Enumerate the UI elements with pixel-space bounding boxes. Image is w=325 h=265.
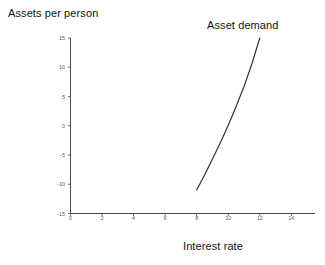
- x-tick-label: 8: [195, 215, 198, 221]
- x-tick-label: 10: [225, 215, 231, 221]
- tick-marks: [68, 38, 291, 216]
- asset-demand-curve: [197, 38, 260, 190]
- x-tick-label: 14: [288, 215, 294, 221]
- y-tick-label: 15: [46, 35, 65, 41]
- chart-screenshot: Assets per person Asset demand 151050-5-…: [0, 0, 325, 265]
- x-tick-label: 12: [257, 215, 263, 221]
- y-tick-label: 0: [46, 123, 65, 129]
- x-tick-label: 0: [69, 215, 72, 221]
- x-tick-label: 6: [164, 215, 167, 221]
- x-axis-title: Interest rate: [183, 240, 243, 252]
- y-tick-label: -15: [46, 211, 65, 217]
- axis-lines: [70, 38, 315, 214]
- x-tick-label: 4: [132, 215, 135, 221]
- y-tick-label: 10: [46, 64, 65, 70]
- x-tick-label: 2: [101, 215, 104, 221]
- y-tick-label: 5: [46, 94, 65, 100]
- y-tick-label: -5: [46, 152, 65, 158]
- y-tick-label: -10: [46, 181, 65, 187]
